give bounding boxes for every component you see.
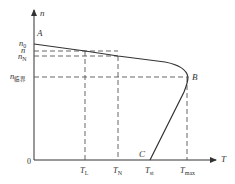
y-axis-label: n — [40, 8, 45, 18]
x-axis-label: T — [221, 154, 227, 164]
tick-TN: TN — [113, 165, 123, 176]
characteristic-curve — [34, 44, 188, 160]
point-A-label: A — [36, 28, 43, 38]
origin-label: 0 — [27, 157, 31, 166]
tick-ncrit: n临界 — [10, 71, 26, 83]
tick-Tmax: Tmax — [180, 165, 195, 176]
point-C-label: C — [139, 149, 146, 159]
characteristic-diagram: n A n0 n nN n临界 B C 0 T TL TN Tst Tmax — [0, 0, 235, 184]
tick-Tst: Tst — [145, 165, 154, 176]
point-B-label: B — [192, 72, 198, 82]
tick-TL: TL — [80, 165, 89, 176]
